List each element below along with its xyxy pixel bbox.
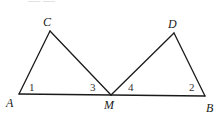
vertex-label-c: C bbox=[43, 15, 52, 29]
segment-cm bbox=[50, 31, 111, 95]
angle-label-2: 2 bbox=[189, 81, 195, 93]
cut-off-header-text: — — bbox=[27, 0, 56, 7]
segments bbox=[19, 31, 205, 96]
angle-label-4: 4 bbox=[128, 81, 134, 93]
vertex-label-d: D bbox=[167, 17, 177, 31]
vertex-label-m: M bbox=[103, 98, 115, 112]
geometry-diagram: — — ACMDB 1342 bbox=[0, 0, 223, 118]
vertex-labels: ACMDB bbox=[5, 15, 214, 115]
segment-ac bbox=[19, 31, 50, 94]
angle-label-3: 3 bbox=[90, 81, 96, 93]
angle-label-1: 1 bbox=[29, 81, 35, 93]
vertex-label-a: A bbox=[5, 96, 14, 110]
angle-labels: 1342 bbox=[29, 81, 195, 93]
vertex-label-b: B bbox=[206, 101, 214, 115]
segment-md bbox=[111, 33, 174, 95]
